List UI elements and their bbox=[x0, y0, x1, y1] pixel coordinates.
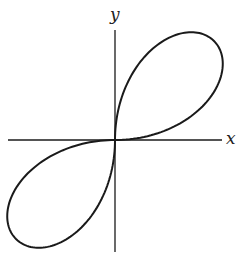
x-axis-label: x bbox=[226, 128, 236, 148]
diagram: y x bbox=[0, 0, 239, 253]
y-axis-label: y bbox=[110, 4, 120, 24]
curve-plot bbox=[0, 0, 239, 253]
